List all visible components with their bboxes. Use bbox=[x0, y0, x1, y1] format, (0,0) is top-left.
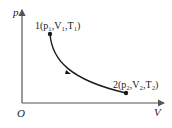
x-axis-label: V bbox=[154, 106, 162, 118]
y-axis-label: p bbox=[12, 6, 19, 18]
point-2-label: 2(p₂,V₂,T₂) bbox=[113, 79, 158, 91]
point-2 bbox=[124, 91, 128, 95]
point-1 bbox=[48, 32, 52, 36]
point-1-label: 1(p₁,V₁,T₁) bbox=[35, 20, 80, 32]
origin-label: O bbox=[17, 107, 25, 119]
pv-diagram: p V O 1(p₁,V₁,T₁) 2(p₂,V₂,T₂) bbox=[0, 0, 172, 128]
